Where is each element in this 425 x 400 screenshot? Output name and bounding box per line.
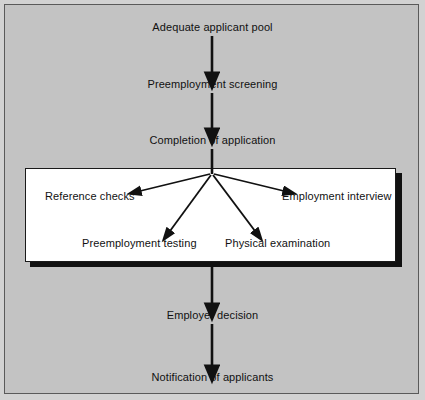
node-preemployment-testing: Preemployment testing — [82, 237, 197, 250]
node-employer-decision: Employer decision — [0, 309, 425, 322]
flowchart-canvas: Adequate applicant pool Preemployment sc… — [0, 0, 425, 400]
node-preemployment-screening: Preemployment screening — [0, 78, 425, 91]
node-notification-of-applicants: Notification of applicants — [0, 371, 425, 384]
node-reference-checks: Reference checks — [45, 190, 135, 203]
node-completion-of-application: Completion of application — [0, 134, 425, 147]
node-physical-examination: Physical examination — [225, 237, 330, 250]
subprocess-panel — [25, 168, 396, 262]
node-employment-interview: Employment interview — [282, 190, 392, 203]
node-adequate-applicant-pool: Adequate applicant pool — [0, 21, 425, 34]
